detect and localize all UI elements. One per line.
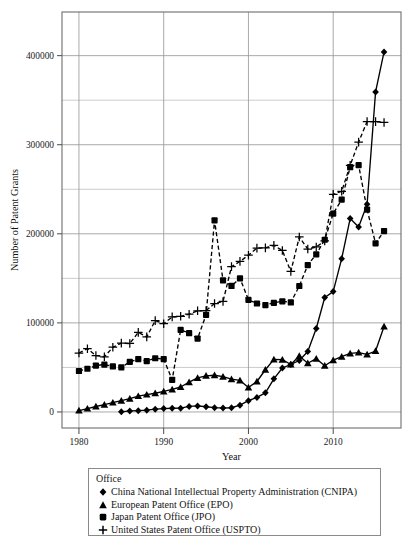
triangle-data-point [312, 355, 320, 362]
square-data-point [110, 363, 116, 369]
diamond-data-point [127, 407, 134, 414]
plus-data-point [287, 267, 296, 276]
square-data-point [330, 210, 336, 216]
y-tick-label: 200000 [26, 229, 54, 239]
diamond-marker-icon [96, 486, 110, 498]
legend-label-jpo: Japan Patent Office (JPO) [111, 511, 215, 524]
plus-data-point [185, 310, 194, 319]
legend-item-cnipa[interactable]: China National Intellectual Property Adm… [96, 486, 380, 499]
caption-strip [0, 540, 414, 550]
series-plus [75, 117, 389, 361]
y-tick-label: 400000 [26, 51, 54, 61]
square-data-point [135, 356, 141, 362]
plus-data-point [278, 246, 287, 255]
diamond-data-point [245, 397, 252, 404]
diamond-data-point [169, 405, 176, 412]
series-diamond [118, 48, 387, 415]
diamond-data-point [338, 255, 345, 262]
square-data-point [245, 297, 251, 303]
series-line [79, 327, 384, 411]
square-marker-icon [96, 511, 110, 523]
x-axis-title: Year [222, 451, 241, 460]
square-data-point [339, 197, 345, 203]
y-axis-title: Number of Patent Grants [9, 169, 20, 271]
diamond-data-point [381, 48, 388, 55]
series-line [79, 122, 384, 357]
square-data-point [169, 377, 175, 383]
square-data-point [161, 356, 167, 362]
square-data-point [381, 228, 387, 234]
diamond-data-point [211, 404, 218, 411]
plus-data-point [303, 245, 312, 254]
diamond-data-point [186, 403, 193, 410]
triangle-data-point [185, 379, 193, 386]
square-data-point [237, 275, 243, 281]
plus-data-point [210, 299, 219, 308]
plus-data-point [227, 262, 236, 271]
square-data-point [195, 335, 201, 341]
plus-data-point [159, 319, 168, 328]
square-data-point [186, 330, 192, 336]
square-data-point [313, 251, 319, 257]
diamond-data-point [143, 407, 150, 414]
data-series-layer [75, 48, 389, 415]
plus-data-point [329, 190, 338, 199]
legend-item-epo[interactable]: European Patent Office (EPO) [96, 499, 380, 512]
diamond-data-point [203, 403, 210, 410]
diamond-data-point [321, 294, 328, 301]
square-data-point [93, 362, 99, 368]
square-data-point [296, 283, 302, 289]
square-data-point [356, 162, 362, 168]
plus-data-point [261, 244, 270, 253]
triangle-data-point [329, 357, 337, 364]
square-data-point [254, 300, 260, 306]
triangle-data-point [380, 323, 388, 330]
x-tick-label: 2000 [239, 437, 258, 447]
diamond-data-point [313, 325, 320, 332]
triangle-data-point [177, 383, 185, 390]
plus-data-point [219, 297, 228, 306]
y-tick-label: 300000 [26, 140, 54, 150]
x-tick-label: 2010 [324, 437, 343, 447]
diamond-data-point [160, 405, 167, 412]
square-data-point [127, 359, 133, 365]
square-data-point [228, 283, 234, 289]
legend-item-jpo[interactable]: Japan Patent Office (JPO) [96, 511, 380, 524]
chart-plot-area: 0100000200000300000400000198019902000201… [0, 0, 414, 460]
plus-data-point [270, 241, 279, 250]
diamond-data-point [237, 402, 244, 409]
plus-data-point [142, 333, 151, 342]
plus-data-point [193, 306, 202, 315]
y-tick-label: 100000 [26, 318, 54, 328]
diamond-data-point [177, 405, 184, 412]
diamond-data-point [194, 402, 201, 409]
legend-label-uspto: United States Patent Office (USPTO) [111, 524, 261, 537]
legend-item-uspto[interactable]: United States Patent Office (USPTO) [96, 524, 380, 537]
diamond-data-point [330, 288, 337, 295]
plus-data-point [380, 118, 389, 127]
triangle-marker-icon [96, 499, 110, 511]
triangle-data-point [372, 347, 380, 354]
plus-data-point [151, 316, 160, 325]
square-data-point [178, 327, 184, 333]
plus-data-point [176, 312, 185, 321]
square-data-point [271, 300, 277, 306]
y-tick-label: 0 [49, 407, 54, 417]
x-tick-label: 1980 [70, 437, 89, 447]
triangle-data-point [296, 352, 304, 359]
legend: Office China National Intellectual Prope… [88, 468, 381, 536]
square-data-point [372, 240, 378, 246]
diamond-data-point [135, 407, 142, 414]
square-data-point [84, 366, 90, 372]
diamond-data-point [254, 394, 261, 401]
plus-marker-icon [96, 524, 110, 536]
plus-data-point [117, 339, 126, 348]
square-data-point [288, 299, 294, 305]
plus-data-point [337, 187, 346, 196]
diamond-data-point [372, 88, 379, 95]
plus-data-point [363, 117, 372, 126]
square-data-point [76, 368, 82, 374]
diamond-data-point [228, 404, 235, 411]
diamond-data-point [262, 389, 269, 396]
series-square [76, 162, 387, 383]
